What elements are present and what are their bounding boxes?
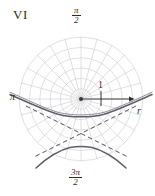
polar-hyperbola-figure: VI π 2 3π 2 π r 1	[0, 0, 155, 196]
angle-label-pi-over-2-denominator: 2	[72, 16, 81, 25]
figure-number-label: VI	[13, 8, 28, 21]
radial-axis-label: r	[137, 106, 141, 116]
angle-label-pi-over-2: π 2	[72, 6, 81, 26]
radial-tick-label-one: 1	[98, 80, 103, 90]
angle-label-3pi-over-2-denominator: 2	[69, 178, 82, 187]
angle-label-3pi-over-2: 3π 2	[69, 168, 82, 188]
angle-label-pi: π	[10, 92, 15, 102]
